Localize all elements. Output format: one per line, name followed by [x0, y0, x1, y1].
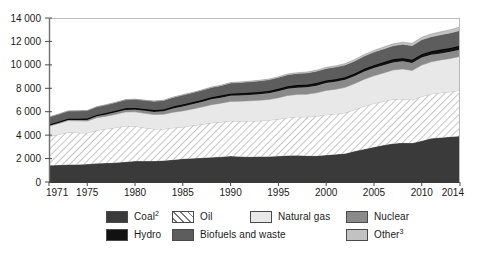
legend-label-oil: Oil: [200, 211, 213, 223]
y-axis-ticks: 02 0004 0006 0008 00010 00012 00014 000: [10, 13, 52, 188]
hydro-swatch: [106, 229, 128, 241]
y-tick-label: 14 000: [10, 13, 41, 24]
legend-item-hydro[interactable]: Hydro: [106, 227, 161, 243]
nuclear-swatch: [346, 211, 368, 223]
y-tick-label: 10 000: [10, 59, 41, 70]
x-tick-label: 2010: [411, 187, 434, 198]
legend-row-top: Coal2 Oil Natural gas Nuclear: [0, 209, 486, 227]
y-tick-label: 2 000: [16, 153, 41, 164]
biofuels-swatch: [172, 229, 194, 241]
plot-area: 02 0004 0006 0008 00010 00012 00014 000 …: [0, 0, 486, 200]
x-tick-label: 1975: [76, 187, 99, 198]
y-tick-label: 12 000: [10, 36, 41, 47]
x-tick-label: 1980: [124, 187, 147, 198]
y-tick-label: 6 000: [16, 106, 41, 117]
x-tick-label: 1990: [219, 187, 242, 198]
chart-legend: Coal2 Oil Natural gas Nuclear Hydro: [0, 205, 486, 261]
stacked-area-chart: 02 0004 0006 0008 00010 00012 00014 000 …: [0, 0, 486, 261]
x-tick-label: 2005: [363, 187, 386, 198]
x-tick-label: 1971: [46, 187, 69, 198]
legend-label-hydro: Hydro: [134, 229, 161, 241]
legend-item-nuclear[interactable]: Nuclear: [346, 209, 409, 225]
legend-item-other[interactable]: Other3: [346, 227, 404, 243]
x-axis-ticks: 1971197519801985199019952000200520102014: [46, 182, 464, 198]
legend-item-natural-gas[interactable]: Natural gas: [250, 209, 330, 225]
other-swatch: [346, 229, 368, 241]
x-tick-label: 1985: [172, 187, 195, 198]
natural-gas-swatch: [250, 211, 272, 223]
y-tick-label: 8 000: [16, 83, 41, 94]
legend-item-biofuels[interactable]: Biofuels and waste: [172, 227, 286, 243]
x-tick-label: 2000: [315, 187, 338, 198]
oil-swatch: [172, 211, 194, 223]
legend-label-biofuels: Biofuels and waste: [200, 229, 286, 241]
legend-label-coal: Coal2: [134, 211, 159, 223]
legend-label-other: Other3: [374, 229, 404, 241]
legend-item-coal[interactable]: Coal2: [106, 209, 159, 225]
coal-swatch: [106, 211, 128, 223]
y-tick-label: 0: [35, 177, 41, 188]
legend-row-bottom: Hydro Biofuels and waste Other3: [0, 227, 486, 245]
legend-label-nuclear: Nuclear: [374, 211, 409, 223]
legend-label-natural-gas: Natural gas: [278, 211, 330, 223]
y-tick-label: 4 000: [16, 130, 41, 141]
x-tick-label: 1995: [267, 187, 290, 198]
chart-svg: 02 0004 0006 0008 00010 00012 00014 000 …: [0, 0, 486, 200]
legend-item-oil[interactable]: Oil: [172, 209, 213, 225]
x-tick-label: 2014: [442, 187, 465, 198]
